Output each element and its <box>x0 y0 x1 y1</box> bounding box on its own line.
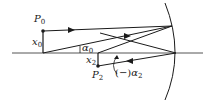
arrow-icon <box>126 58 133 64</box>
return-ray <box>98 53 176 66</box>
reflected-ray-cross <box>100 33 176 53</box>
label-p2: P2 <box>92 70 103 82</box>
label-x2: x2 <box>86 55 96 67</box>
label-p0: P0 <box>34 14 45 26</box>
optics-diagram: P0 x0 α0 x2 P2 (−)α2 <box>0 0 211 102</box>
arrow-icon <box>68 27 75 33</box>
label-x0: x0 <box>32 37 42 49</box>
arrow-icon <box>124 33 131 39</box>
ray-diagram-svg <box>0 0 211 102</box>
arrow-icon <box>114 55 119 59</box>
label-alpha2: (−)α2 <box>115 68 142 80</box>
